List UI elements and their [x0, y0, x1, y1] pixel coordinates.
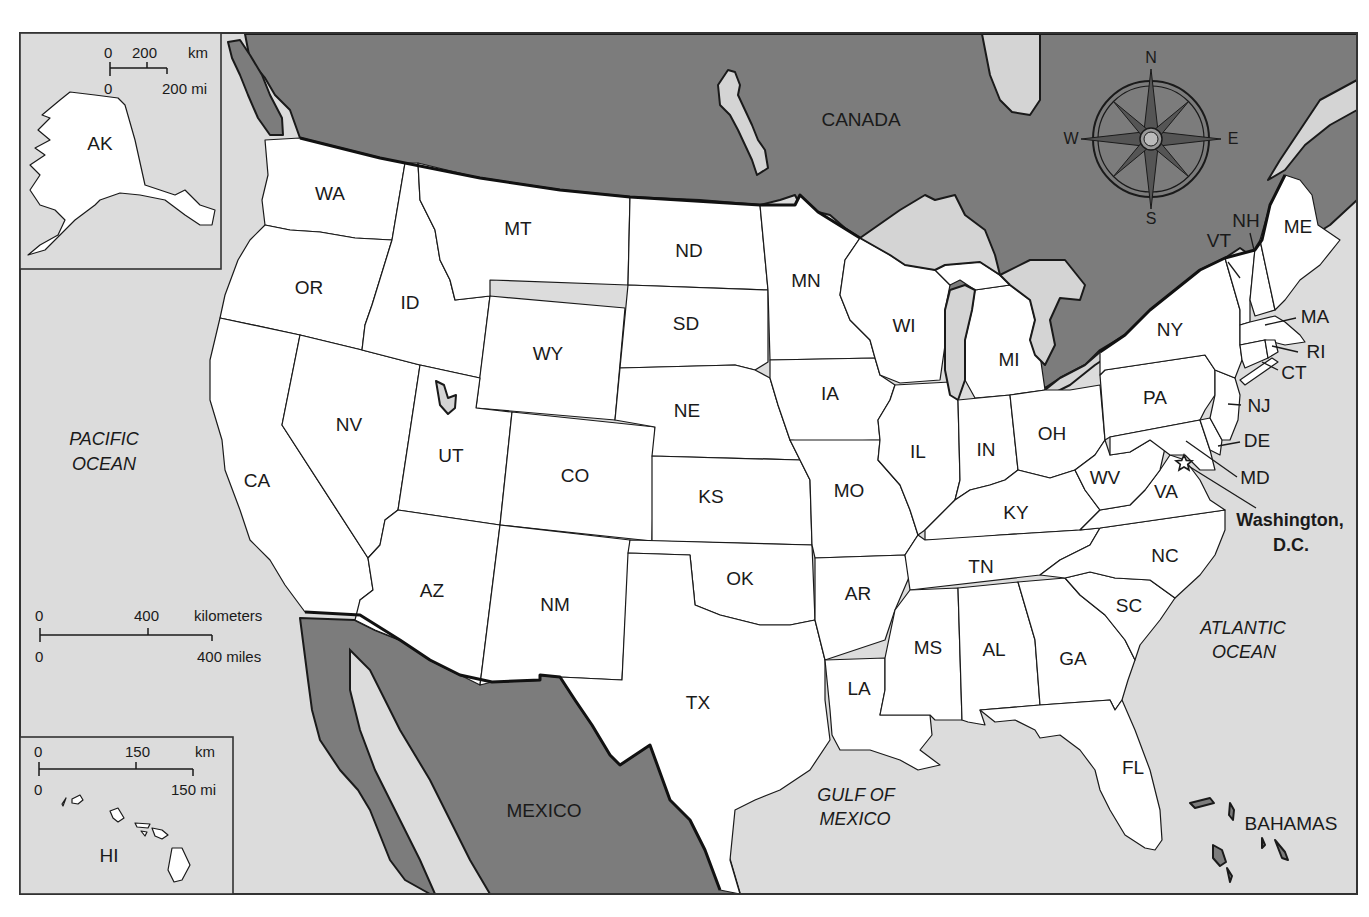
label-la: LA — [847, 678, 871, 699]
alaska-scale-km-zero: 0 — [104, 44, 112, 61]
label-mt: MT — [504, 218, 532, 239]
label-ok: OK — [726, 568, 754, 589]
label-pacific-1: PACIFIC — [69, 429, 140, 449]
label-va: VA — [1154, 481, 1178, 502]
label-atlantic-1: ATLANTIC — [1199, 618, 1287, 638]
label-wy: WY — [533, 343, 564, 364]
label-ca: CA — [244, 470, 271, 491]
main-scale-mi-end: 400 miles — [197, 648, 261, 665]
label-nv: NV — [336, 414, 363, 435]
main-scale-km-zero: 0 — [35, 607, 43, 624]
label-dc-line2: D.C. — [1273, 535, 1309, 555]
hawaii-scale-mi-zero: 0 — [34, 781, 42, 798]
alaska-scale-km-unit: km — [188, 44, 208, 61]
label-nh: NH — [1232, 210, 1259, 231]
label-oh: OH — [1038, 423, 1067, 444]
label-ms: MS — [914, 637, 943, 658]
label-wi: WI — [892, 315, 915, 336]
label-or: OR — [295, 277, 324, 298]
label-ct: CT — [1281, 362, 1307, 383]
label-fl: FL — [1122, 757, 1144, 778]
label-ar: AR — [845, 583, 871, 604]
label-mi: MI — [998, 349, 1019, 370]
label-tn: TN — [968, 556, 993, 577]
label-pa: PA — [1143, 387, 1167, 408]
alaska-inset: 0 200 km 0 200 mi AK — [20, 33, 221, 269]
hawaii-scale-mi-end: 150 mi — [171, 781, 216, 798]
label-sc: SC — [1116, 595, 1142, 616]
label-il: IL — [910, 441, 926, 462]
label-in: IN — [977, 439, 996, 460]
compass-s: S — [1146, 210, 1157, 227]
label-ak: AK — [87, 133, 113, 154]
compass-w: W — [1063, 130, 1079, 147]
label-dc-line1: Washington, — [1236, 510, 1343, 530]
compass-n: N — [1145, 49, 1157, 66]
label-co: CO — [561, 465, 590, 486]
label-mexico: MEXICO — [507, 800, 582, 821]
label-vt: VT — [1207, 230, 1232, 251]
label-mo: MO — [834, 480, 865, 501]
main-scale-km-mid: 400 — [134, 607, 159, 624]
label-tx: TX — [686, 692, 711, 713]
alaska-scale-mi-zero: 0 — [104, 80, 112, 97]
label-hi: HI — [100, 845, 119, 866]
label-sd: SD — [673, 313, 699, 334]
label-md: MD — [1240, 467, 1270, 488]
state-ks — [652, 456, 812, 545]
label-wv: WV — [1090, 467, 1121, 488]
label-ri: RI — [1307, 341, 1326, 362]
label-de: DE — [1244, 430, 1270, 451]
label-atlantic-2: OCEAN — [1212, 642, 1277, 662]
label-me: ME — [1284, 216, 1313, 237]
label-ky: KY — [1003, 502, 1029, 523]
alaska-scale-mi-end: 200 mi — [162, 80, 207, 97]
hawaii-scale-km-mid: 150 — [125, 743, 150, 760]
hawaii-island — [135, 823, 150, 828]
us-map: 0 200 km 0 200 mi AK 0 150 km 0 150 mi H… — [0, 0, 1369, 917]
alaska-scale-km-mid: 200 — [132, 44, 157, 61]
label-bahamas: BAHAMAS — [1245, 813, 1338, 834]
label-ga: GA — [1059, 648, 1087, 669]
hawaii-inset: 0 150 km 0 150 mi HI — [20, 737, 233, 894]
label-ia: IA — [821, 383, 839, 404]
hawaii-scale-km-zero: 0 — [34, 743, 42, 760]
label-nc: NC — [1151, 545, 1178, 566]
label-wa: WA — [315, 183, 345, 204]
label-nj: NJ — [1247, 395, 1270, 416]
label-az: AZ — [420, 580, 445, 601]
label-al: AL — [982, 639, 1005, 660]
label-ut: UT — [438, 445, 464, 466]
main-scale-km-unit: kilometers — [194, 607, 262, 624]
label-nm: NM — [540, 594, 570, 615]
label-id: ID — [401, 292, 420, 313]
label-ny: NY — [1157, 319, 1184, 340]
hawaii-scale-km-unit: km — [195, 743, 215, 760]
label-mn: MN — [791, 270, 821, 291]
label-nd: ND — [675, 240, 702, 261]
label-canada: CANADA — [821, 109, 901, 130]
compass-e: E — [1228, 130, 1239, 147]
label-gulf-1: GULF OF — [817, 785, 896, 805]
label-gulf-2: MEXICO — [819, 809, 890, 829]
label-pacific-2: OCEAN — [72, 454, 137, 474]
label-ne: NE — [674, 400, 700, 421]
label-ma: MA — [1301, 306, 1330, 327]
main-scale-mi-zero: 0 — [35, 648, 43, 665]
label-ks: KS — [698, 486, 723, 507]
